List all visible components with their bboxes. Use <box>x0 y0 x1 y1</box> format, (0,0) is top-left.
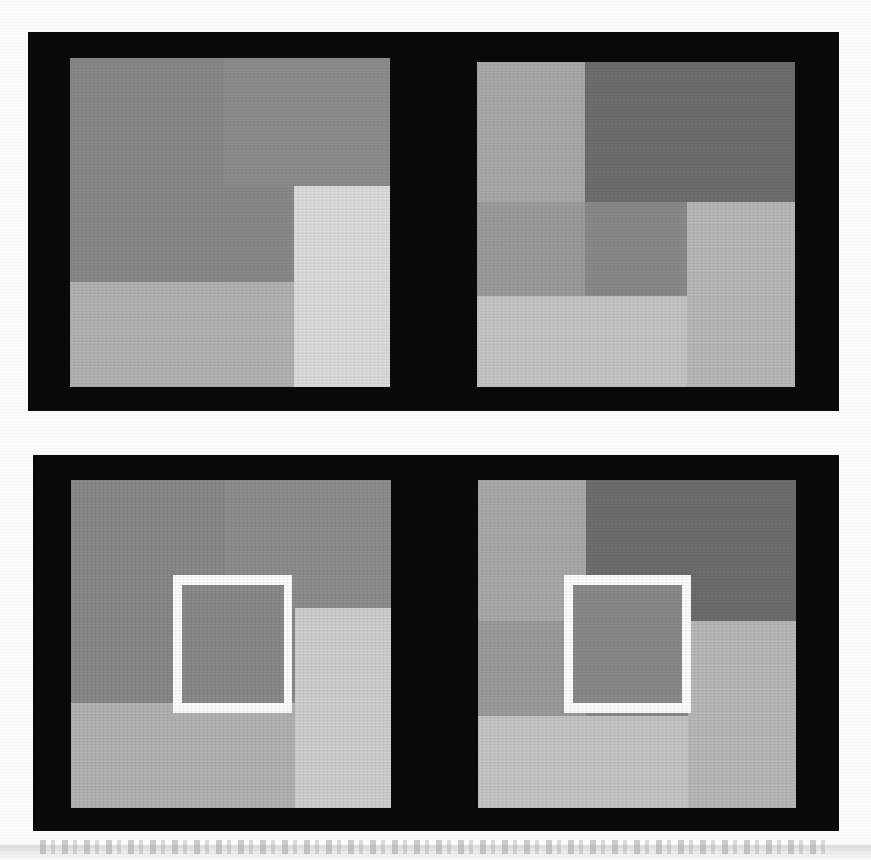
top-right-upper-left-light-gray <box>477 62 585 202</box>
bottom-right-right-light-column <box>688 621 796 808</box>
bottom-right-stimulus <box>478 480 796 808</box>
bottom-right-isolated-test-patch <box>573 585 682 703</box>
illusion-figure <box>0 0 871 860</box>
top-left-right-bright-column <box>294 186 390 387</box>
top-left-center-test-patch <box>224 186 294 281</box>
top-left-upper-left-large-gray <box>70 58 224 282</box>
bottom-left-isolated-test-patch <box>182 585 284 703</box>
bottom-left-right-bright-column <box>295 608 391 808</box>
bottom-left-lower-left-light-gray <box>71 703 295 808</box>
top-right-stimulus <box>477 62 795 387</box>
top-right-lower-left-bright-gray <box>477 296 687 387</box>
top-left-upper-right-gray <box>224 58 390 186</box>
top-left-lower-left-light-gray <box>70 282 294 387</box>
top-right-mid-left-gray <box>477 202 585 296</box>
top-left-stimulus <box>70 58 390 387</box>
bottom-right-lower-left-bright-gray <box>478 716 688 808</box>
top-right-right-light-column <box>687 202 795 387</box>
top-right-center-test-patch <box>585 202 687 296</box>
page-bottom-edge <box>0 845 871 860</box>
top-right-upper-right-dark-gray <box>585 62 795 202</box>
bottom-left-stimulus <box>71 480 391 808</box>
